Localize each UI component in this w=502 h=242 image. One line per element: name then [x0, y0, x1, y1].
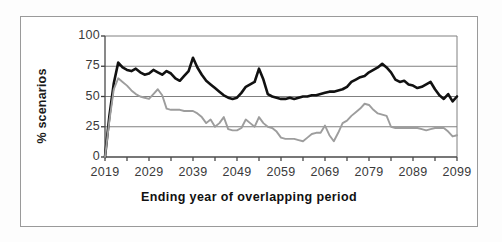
- figure-container: % scenarios 0255075100 20192029203920492…: [0, 0, 502, 242]
- plot-area: % scenarios 0255075100 20192029203920492…: [0, 0, 502, 242]
- data-line-upper-series-black: [105, 58, 457, 157]
- data-line-lower-series-gray: [105, 78, 457, 157]
- x-tick-label: 2069: [310, 165, 339, 179]
- x-tick-label: 2079: [354, 165, 383, 179]
- gridlines: [105, 36, 457, 157]
- y-tick-label: 50: [58, 89, 100, 103]
- y-axis-title: % scenarios: [33, 52, 51, 160]
- x-tick-label: 2059: [266, 165, 295, 179]
- y-tick-label: 100: [58, 28, 100, 42]
- x-tick-label: 2099: [442, 165, 471, 179]
- data-series-group: [105, 58, 457, 157]
- x-tick-label: 2049: [222, 165, 251, 179]
- x-axis-title: Ending year of overlapping period: [20, 190, 478, 204]
- y-tick-label: 25: [58, 119, 100, 133]
- x-tick-label: 2039: [178, 165, 207, 179]
- x-tick-label: 2019: [90, 165, 119, 179]
- x-tick-label: 2029: [134, 165, 163, 179]
- y-tick-label: 75: [58, 58, 100, 72]
- y-tick-label: 0: [58, 149, 100, 163]
- x-tick-label: 2089: [398, 165, 427, 179]
- y-axis-title-text: % scenarios: [35, 68, 49, 143]
